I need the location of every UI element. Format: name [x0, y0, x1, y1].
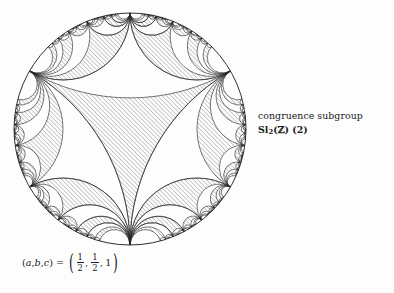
hatched-ideal-triangle [219, 186, 230, 199]
value-b-denominator: 2 [91, 264, 98, 273]
tessellation-group [14, 13, 246, 245]
value-b-fraction: 1 2 [91, 253, 98, 272]
value-c: 1 [105, 257, 111, 268]
geodesic-arc [196, 219, 202, 224]
geodesic-arc [48, 43, 53, 48]
equals-sign: = [56, 257, 64, 268]
caption-block: congruence subgroup Sl2(ℤ) (2) [258, 109, 363, 136]
hatched-ideal-triangle [30, 186, 41, 199]
group-degree: 2 [268, 128, 273, 136]
group-name: Sl [258, 124, 268, 135]
geodesic-arc [53, 215, 58, 220]
value-a-fraction: 1 2 [77, 253, 84, 272]
tuple-sep-2: , [100, 257, 103, 268]
value-a-denominator: 2 [77, 264, 84, 273]
value-a-numerator: 1 [77, 253, 84, 262]
poincare-disk-diagram [0, 0, 394, 293]
parameter-formula: (a, b, c) = ( 1 2 , 1 2 , 1 ) [22, 253, 120, 272]
tuple-sep-1: , [85, 257, 88, 268]
caption-line-congruence-subgroup: congruence subgroup [258, 109, 363, 123]
geodesic-arc [201, 215, 206, 220]
geodesic-arc [58, 219, 64, 224]
caption-line-group: Sl2(ℤ) (2) [258, 123, 363, 137]
group-level: (2) [289, 124, 308, 135]
geodesic-arc [207, 43, 212, 48]
value-b-numerator: 1 [91, 253, 98, 262]
figure-root: congruence subgroup Sl2(ℤ) (2) (a, b, c)… [0, 0, 394, 293]
tuple-label-close: ) [49, 257, 53, 268]
